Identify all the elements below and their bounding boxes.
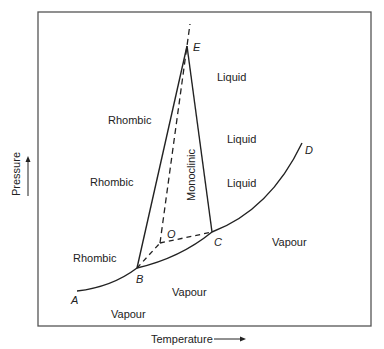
dashed-OE (160, 24, 190, 243)
curve-CD (212, 143, 302, 232)
line-CE (187, 46, 212, 232)
region-label-rhombic: Rhombic (73, 252, 117, 264)
point-label-O: O (167, 228, 176, 240)
y-axis-label: Pressure (10, 152, 22, 196)
region-label-liquid: Liquid (227, 177, 256, 189)
point-label-E: E (193, 41, 201, 53)
region-label-vapour: Vapour (272, 236, 307, 248)
x-axis-arrowhead-icon (240, 337, 246, 342)
point-label-C: C (214, 236, 222, 248)
region-label-vapour: Vapour (111, 308, 146, 320)
region-label-liquid: Liquid (217, 71, 246, 83)
region-label-rhombic: Rhombic (108, 114, 152, 126)
point-label-A: A (70, 294, 78, 306)
plot-frame (38, 12, 371, 326)
line-BE (137, 46, 187, 268)
region-label-vapour: Vapour (172, 286, 207, 298)
phase-diagram: E D O C B A Rhombic Rhombic Rhombic Liqu… (0, 0, 384, 349)
x-axis-label: Temperature (151, 333, 213, 345)
region-label-monoclinic: Monoclinic (185, 149, 197, 201)
region-label-liquid: Liquid (227, 133, 256, 145)
point-label-D: D (305, 144, 313, 156)
region-label-rhombic: Rhombic (90, 176, 134, 188)
point-label-B: B (136, 273, 143, 285)
y-axis-arrowhead-icon (26, 156, 31, 162)
curve-AB (77, 268, 137, 291)
